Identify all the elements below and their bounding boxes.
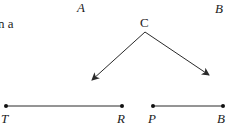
partial-text: n a: [0, 17, 14, 30]
point-b: [221, 104, 225, 108]
point-r: [120, 104, 124, 108]
label-c: C: [140, 16, 149, 29]
arrow-c-to-right: [145, 32, 209, 75]
label-a: A: [77, 1, 85, 14]
point-t: [4, 104, 8, 108]
diagram-graphics: [0, 0, 230, 128]
label-p: P: [148, 112, 156, 125]
label-t: T: [1, 112, 8, 125]
label-r: R: [117, 112, 125, 125]
arrow-c-to-left: [92, 32, 145, 80]
point-p: [151, 104, 155, 108]
diagram-canvas: n a A B C T R P B: [0, 0, 230, 128]
label-b-bottom: B: [217, 112, 225, 125]
label-b-top: B: [215, 2, 223, 15]
